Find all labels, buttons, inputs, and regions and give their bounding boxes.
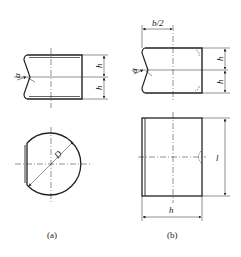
caption-b: (b) [167, 230, 178, 240]
height-top-label: h [94, 63, 104, 68]
height-top-label-b: h [215, 56, 225, 61]
panel-b: b/2 α h h l h (b) [129, 18, 230, 240]
caption-a: (a) [47, 230, 57, 240]
width-label: h [169, 205, 174, 215]
panel-a-front-view [14, 48, 108, 108]
angle-alpha-label-b: α [129, 68, 139, 73]
angle-alpha-label: α [12, 73, 22, 78]
panel-a-top-view [15, 127, 92, 202]
half-width-label: b/2 [152, 18, 164, 28]
diameter-label: D [51, 148, 64, 161]
technical-drawing: α h h D (a) [0, 0, 241, 257]
height-bottom-label-b: h [215, 79, 225, 84]
height-bottom-label: h [94, 85, 104, 90]
panel-b-front-view [132, 25, 230, 100]
panel-a: α h h D (a) [12, 48, 108, 240]
panel-b-side-view [138, 112, 230, 221]
length-label: l [216, 153, 219, 163]
